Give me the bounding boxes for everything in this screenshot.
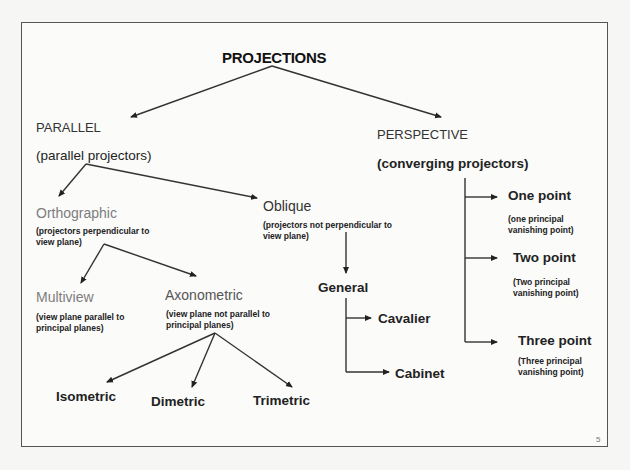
dimetric-label: Dimetric: [151, 394, 205, 410]
two-point-desc: (Two principal vanishing point): [513, 277, 593, 300]
cabinet-label: Cabinet: [395, 366, 445, 382]
multiview-desc: (view plane parallel to principal planes…: [36, 312, 126, 335]
isometric-label: Isometric: [56, 389, 116, 405]
perspective-desc: (converging projectors): [377, 156, 529, 172]
one-point-label: One point: [508, 188, 571, 204]
page-number: 5: [596, 435, 600, 444]
cavalier-label: Cavalier: [378, 311, 431, 327]
three-point-label: Three point: [518, 333, 592, 349]
oblique-label: Oblique: [263, 198, 311, 214]
parallel-desc: (parallel projectors): [36, 148, 152, 164]
trimetric-label: Trimetric: [253, 393, 310, 409]
axonometric-desc: (view plane not parallel to principal pl…: [166, 309, 296, 332]
two-point-label: Two point: [513, 250, 576, 266]
diagram-title: PROJECTIONS: [222, 49, 326, 66]
oblique-desc: (projectors not perpendicular to view pl…: [263, 220, 403, 243]
general-label: General: [318, 280, 368, 296]
perspective-label: PERSPECTIVE: [377, 128, 468, 143]
parallel-label: PARALLEL: [36, 121, 101, 136]
axonometric-label: Axonometric: [165, 287, 243, 303]
three-point-desc: (Three principal vanishing point): [518, 356, 598, 379]
orthographic-label: Orthographic: [36, 205, 117, 221]
multiview-label: Multiview: [36, 289, 94, 305]
one-point-desc: (one principal vanishing point): [508, 214, 593, 237]
orthographic-desc: (projectors perpendicular to view plane): [36, 226, 156, 249]
